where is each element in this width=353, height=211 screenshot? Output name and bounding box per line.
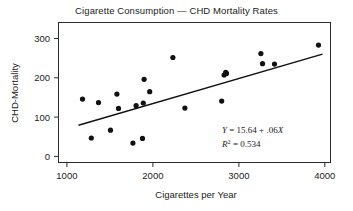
- data-point: [114, 91, 119, 96]
- scatter-plot: 300 200 100 0 CHD-Mortality 1000 2000 30…: [0, 0, 353, 211]
- data-point: [219, 98, 224, 103]
- plot-frame: [59, 23, 331, 163]
- x-tick-label-4000: 4000: [314, 170, 335, 181]
- r-value: = 0.534: [231, 139, 261, 149]
- data-point: [272, 62, 277, 67]
- data-point: [224, 71, 229, 76]
- data-point: [96, 100, 101, 105]
- x-axis-ticks: [67, 163, 325, 168]
- data-point: [116, 106, 121, 111]
- regression-line: [79, 54, 323, 125]
- y-tick-label-200: 200: [34, 72, 50, 83]
- data-point: [142, 77, 147, 82]
- data-point: [258, 51, 263, 56]
- data-point: [130, 140, 135, 145]
- x-tick-label-1000: 1000: [56, 170, 77, 181]
- data-point: [316, 42, 321, 47]
- data-point: [260, 61, 265, 66]
- y-axis-ticks: [54, 39, 59, 157]
- y-tick-label-0: 0: [45, 151, 50, 162]
- y-axis-title: CHD-Mortality: [9, 63, 20, 123]
- y-tick-label-100: 100: [34, 112, 50, 123]
- data-point: [80, 97, 85, 102]
- data-point: [147, 89, 152, 94]
- chart-figure: Cigarette Consumption — CHD Mortality Ra…: [0, 0, 353, 211]
- data-point: [170, 55, 175, 60]
- r-squared-annotation: R2 = 0.534: [221, 138, 261, 150]
- data-point: [140, 136, 145, 141]
- x-tick-label-2000: 2000: [142, 170, 163, 181]
- data-point: [182, 105, 187, 110]
- regression-equation: Y = 15.64 + .06X: [222, 125, 284, 135]
- x-axis-title: Cigarettes per Year: [155, 189, 236, 200]
- equation-body: = 15.64 + .06: [227, 125, 278, 135]
- data-point: [134, 103, 139, 108]
- data-point: [89, 135, 94, 140]
- equation-x-symbol: X: [277, 125, 284, 135]
- data-point: [141, 100, 146, 105]
- y-tick-label-300: 300: [34, 33, 50, 44]
- data-point: [108, 128, 113, 133]
- x-tick-label-3000: 3000: [228, 170, 249, 181]
- data-points-group: [80, 42, 321, 145]
